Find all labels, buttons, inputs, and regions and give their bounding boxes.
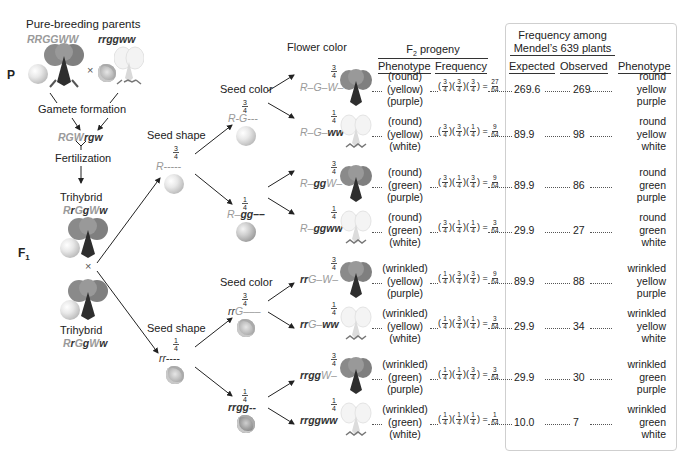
seed-shape-label-bottom: Seed shape [147, 322, 206, 334]
parent-2-genotype: rrggww [98, 33, 135, 45]
leader-dots [545, 91, 570, 92]
flower-prob: 34 [330, 352, 338, 367]
leader-dots [545, 136, 570, 137]
f1-purple-flower-icon-1 [68, 216, 108, 260]
f1-purple-flower-icon-2 [68, 278, 108, 322]
flower-prob: 34 [330, 64, 338, 79]
shape-prob-wrinkled: 14 [172, 337, 180, 352]
row-phenotype: (round)(yellow)(purple) [380, 70, 430, 108]
color-seed-icon-1 [236, 222, 256, 242]
row-observed: 7 [573, 416, 579, 428]
purple-flower-icon [340, 356, 372, 396]
row-genotype: R–ggww [300, 222, 343, 234]
row-phenotype: (round)(green)(white) [380, 211, 430, 249]
leader-dots [430, 136, 438, 137]
leader-dots [430, 379, 438, 380]
leader-dots [488, 283, 512, 284]
color-seed-icon-3 [237, 415, 255, 433]
row-phenotype-right: wrinkledyellowpurple [606, 262, 666, 300]
row-phenotype-right: roundyellowpurple [606, 70, 666, 108]
row-genotype: R–ggW– [300, 177, 342, 189]
row-phenotype-right: roundgreenwhite [606, 211, 666, 249]
flower-prob: 14 [330, 301, 338, 316]
row-expected: 29.9 [514, 371, 534, 383]
row-phenotype: (wrinkled)(green)(white) [380, 403, 430, 441]
flower-prob: 14 [330, 397, 338, 412]
row-observed: 30 [573, 371, 585, 383]
seed-shape-label-top: Seed shape [147, 129, 206, 141]
purple-flower-icon [44, 42, 84, 88]
row-genotype: rrggww [300, 414, 337, 426]
gamete-2: rgw [84, 131, 103, 143]
row-genotype: rrggW– [300, 369, 337, 381]
leader-dots [488, 91, 512, 92]
leader-dots [488, 379, 512, 380]
flower-color-label: Flower color [287, 41, 347, 53]
white-flower-icon [340, 113, 372, 153]
flower-prob: 34 [330, 160, 338, 175]
white-flower-icon [114, 46, 144, 86]
row-expected: 29.9 [514, 224, 534, 236]
row-observed: 86 [573, 179, 585, 191]
row-expected: 89.9 [514, 275, 534, 287]
purple-flower-icon [340, 68, 372, 108]
leader-dots [430, 328, 438, 329]
white-flower-icon [340, 401, 372, 441]
color-seed-icon-2 [237, 319, 255, 337]
row-phenotype: (wrinkled)(yellow)(purple) [380, 262, 430, 300]
leader-dots [488, 136, 512, 137]
row-phenotype-right: wrinkledgreenwhite [606, 403, 666, 441]
f1-trihybrid-1-label: Trihybrid [60, 191, 102, 203]
f2-progeny-header: F2 progeny [378, 43, 488, 59]
col-header-observed: Observed [560, 60, 608, 74]
f1-trihybrid-2-label: Trihybrid [60, 324, 102, 336]
leader-dots [545, 232, 570, 233]
flower-prob: 14 [330, 205, 338, 220]
color-genotype-3: rrgg-- [228, 401, 256, 413]
leader-dots [430, 283, 438, 284]
row-expected: 10.0 [514, 416, 534, 428]
leader-dots [545, 283, 570, 284]
row-expected: 89.9 [514, 179, 534, 191]
white-flower-icon [340, 305, 372, 345]
row-phenotype-right: wrinkledgreenpurple [606, 358, 666, 396]
shape-wrinkled-seed-icon [166, 366, 184, 384]
row-phenotype-right: roundyellowwhite [606, 115, 666, 153]
cross-symbol: × [87, 64, 93, 76]
leader-dots [545, 328, 570, 329]
row-observed: 88 [573, 275, 585, 287]
col-header-frequency: Frequency [435, 60, 487, 74]
leader-dots [545, 379, 570, 380]
shape-genotype-round: R----- [156, 160, 181, 172]
col-header-expected: Expected [509, 60, 555, 74]
row-observed: 269 [573, 83, 591, 95]
f1-genotype-1: RrGgWw [63, 204, 107, 216]
color-seed-icon-0 [236, 126, 256, 146]
shape-round-seed-icon [164, 174, 184, 194]
gamete-formation-label: Gamete formation [38, 103, 126, 115]
leader-dots [430, 232, 438, 233]
leader-dots [430, 424, 438, 425]
row-expected: 89.9 [514, 128, 534, 140]
color-genotype-2: rrG––– [228, 305, 261, 317]
row-genotype: R–G–W– [300, 81, 343, 93]
leader-dots [430, 91, 438, 92]
leader-dots [488, 328, 512, 329]
flower-prob: 14 [330, 109, 338, 124]
row-genotype: R–G–ww [300, 126, 344, 138]
row-expected: 29.9 [514, 320, 534, 332]
mendel-header: Frequency among Mendel’s 639 plants [510, 29, 615, 56]
color-genotype-0: R-G--- [228, 112, 258, 124]
shape-genotype-wrinkled: rr---- [159, 352, 180, 364]
p-generation-label: P [7, 68, 15, 82]
f1-genotype-2: RrGgWw [63, 337, 107, 349]
shape-prob-round: 34 [172, 145, 180, 160]
seed-color-label-bottom: Seed color [220, 276, 273, 288]
leader-dots [430, 187, 438, 188]
parents-title: Pure-breeding parents [26, 18, 140, 30]
f1-cross-symbol: × [85, 260, 91, 272]
row-genotype: rrG–W– [300, 273, 338, 285]
flower-prob: 34 [330, 256, 338, 271]
row-phenotype: (round)(green)(purple) [380, 166, 430, 204]
color-genotype-1: R–gg–– [227, 208, 265, 220]
